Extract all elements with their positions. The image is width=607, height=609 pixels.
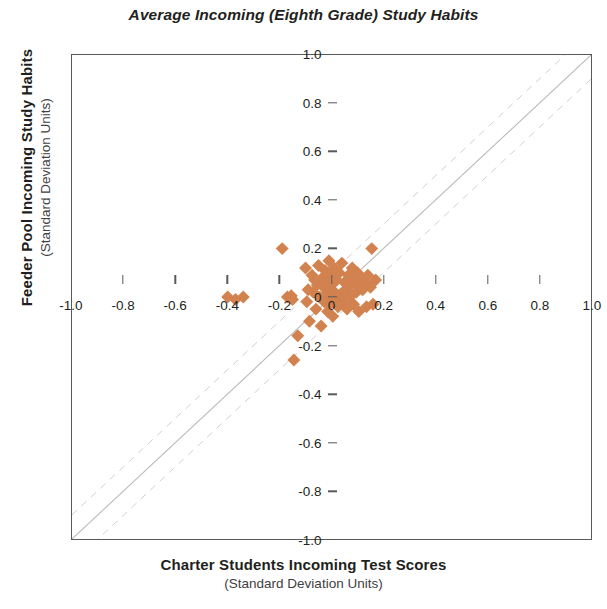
x-axis-tick-label: -0.4 — [216, 298, 239, 313]
y-axis-tick-label: 0.2 — [270, 241, 322, 256]
y-axis-tick-mark — [328, 150, 337, 151]
y-axis-subtitle: (Standard Deviation Units) — [38, 0, 53, 413]
scatter-point — [309, 303, 322, 316]
y-axis-tick-label: -0.8 — [270, 484, 322, 499]
x-axis-subtitle: (Standard Deviation Units) — [0, 576, 607, 591]
x-axis-tick-mark — [227, 275, 228, 284]
y-axis-tick-label: 0.4 — [270, 192, 322, 207]
y-axis-tick-mark — [328, 248, 337, 249]
scatter-point — [365, 242, 378, 255]
y-axis-tick-mark — [328, 442, 337, 443]
chart-figure: Average Incoming (Eighth Grade) Study Ha… — [0, 0, 607, 609]
x-axis-tick-label: 0.8 — [531, 298, 550, 313]
y-axis-tick-mark — [328, 199, 337, 200]
scatter-point — [315, 320, 328, 333]
y-axis-tick-mark — [328, 345, 337, 346]
y-axis-tick-label: -0.4 — [270, 387, 322, 402]
x-axis-tick-label: -0.8 — [111, 298, 134, 313]
x-axis-tick-mark — [331, 275, 332, 284]
x-axis-tick-mark — [383, 275, 384, 284]
y-axis-tick-label: 0.8 — [270, 95, 322, 110]
y-axis-tick-mark — [328, 491, 337, 492]
scatter-point — [287, 353, 300, 366]
x-axis-title-group: Charter Students Incoming Test Scores (S… — [0, 556, 607, 591]
x-axis-tick-label: 0.6 — [478, 298, 497, 313]
y-axis-tick-label: -0.2 — [270, 338, 322, 353]
y-axis-tick-mark — [328, 102, 337, 103]
x-axis-title: Charter Students Incoming Test Scores — [0, 556, 607, 573]
x-axis-tick-label: -0.6 — [164, 298, 187, 313]
x-axis-tick-mark — [435, 275, 436, 284]
y-axis-tick-label: 1.0 — [270, 47, 322, 62]
chart-title: Average Incoming (Eighth Grade) Study Ha… — [0, 6, 607, 24]
y-axis-tick-label: -0.6 — [270, 435, 322, 450]
x-axis-tick-mark — [487, 275, 488, 284]
x-axis-tick-label: 0.4 — [426, 298, 445, 313]
y-axis-tick-label: -1.0 — [270, 533, 322, 548]
y-axis-title-group: Feeder Pool Incoming Study Habits (Stand… — [18, 0, 53, 413]
x-axis-tick-mark — [539, 275, 540, 284]
y-axis-tick-mark — [328, 393, 337, 394]
x-axis-tick-mark — [122, 275, 123, 284]
y-axis-tick-mark — [328, 296, 337, 297]
y-axis-tick-label: 0.6 — [270, 144, 322, 159]
y-axis-tick-label: 0 — [270, 290, 322, 305]
scatter-point — [303, 315, 316, 328]
x-axis-tick-label: 0 — [328, 298, 336, 313]
x-axis-tick-label: -1.0 — [59, 298, 82, 313]
x-axis-tick-mark — [174, 275, 175, 284]
x-axis-tick-label: 0.2 — [374, 298, 393, 313]
y-axis-title: Feeder Pool Incoming Study Habits — [18, 0, 35, 413]
x-axis-tick-label: 1.0 — [583, 298, 602, 313]
x-axis-tick-mark — [279, 275, 280, 284]
